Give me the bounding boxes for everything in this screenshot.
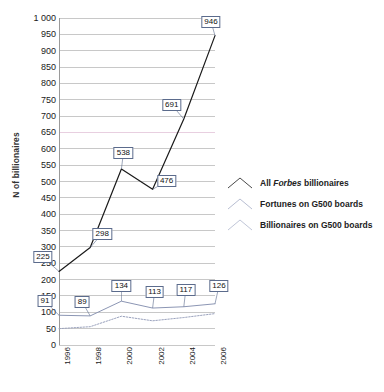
legend-label-all-forbes-billionaires: All Forbes billionaires bbox=[260, 178, 349, 188]
data-point-label: 91 bbox=[38, 295, 53, 307]
data-point-label: 113 bbox=[145, 286, 164, 298]
x-axis-tick-label: 2002 bbox=[157, 347, 166, 365]
y-axis-tick-label: 200 bbox=[0, 275, 56, 285]
legend-label-billionaires-on-g500-boards: Billionaires on G500 boards bbox=[260, 220, 372, 230]
chart-figure: N of billionaires 0501001502002503003504… bbox=[0, 0, 384, 392]
legend-line-marker-icon bbox=[226, 218, 254, 232]
y-axis-tick-label: 900 bbox=[0, 46, 56, 56]
legend-item-all-forbes-billionaires: All Forbes billionaires bbox=[226, 172, 384, 193]
data-point-label: 126 bbox=[209, 280, 228, 292]
y-axis-tick-label: 1 000 bbox=[0, 13, 56, 23]
y-axis-tick-label: 300 bbox=[0, 242, 56, 252]
y-axis-tick-label: 650 bbox=[0, 127, 56, 137]
y-axis-tick-label: 50 bbox=[0, 324, 56, 334]
x-axis-tick-label: 1996 bbox=[63, 347, 72, 365]
x-axis-tick-label: 1998 bbox=[94, 347, 103, 365]
y-axis-tick-labels: 0501001502002503003504004505005506006507… bbox=[0, 0, 56, 392]
data-point-label: 538 bbox=[114, 147, 133, 159]
y-axis-tick-label: 350 bbox=[0, 226, 56, 236]
x-axis-tick-label: 2004 bbox=[188, 347, 197, 365]
legend-line-marker-icon bbox=[226, 176, 254, 190]
y-axis-tick-label: 550 bbox=[0, 160, 56, 170]
x-axis-tick-label: 2000 bbox=[125, 347, 134, 365]
plot-area: 2252985384766919469189134113117126 bbox=[59, 18, 215, 345]
x-axis-tick-label: 2006 bbox=[219, 347, 228, 365]
data-point-label: 134 bbox=[112, 280, 131, 292]
y-axis-tick-label: 500 bbox=[0, 177, 56, 187]
data-point-label: 691 bbox=[162, 99, 181, 111]
data-point-label: 298 bbox=[93, 228, 112, 240]
y-axis-tick-label: 600 bbox=[0, 144, 56, 154]
y-axis-tick-label: 450 bbox=[0, 193, 56, 203]
y-axis-tick-label: 400 bbox=[0, 209, 56, 219]
data-point-label: 225 bbox=[33, 251, 52, 263]
y-axis-tick-label: 800 bbox=[0, 78, 56, 88]
y-axis-tick-label: 950 bbox=[0, 29, 56, 39]
legend-item-fortunes-on-g500-boards: Fortunes on G500 boards bbox=[226, 193, 384, 214]
legend-label-fortunes-on-g500-boards: Fortunes on G500 boards bbox=[260, 199, 363, 209]
y-axis-tick-label: 750 bbox=[0, 95, 56, 105]
legend-item-billionaires-on-g500-boards: Billionaires on G500 boards bbox=[226, 214, 384, 235]
data-point-label: 89 bbox=[75, 296, 90, 308]
x-axis-tick-labels: 199619982000200220042006 bbox=[59, 347, 215, 392]
chart-legend: All Forbes billionaires Fortunes on G500… bbox=[226, 172, 384, 235]
y-axis-tick-label: 0 bbox=[0, 340, 56, 350]
data-point-label: 117 bbox=[176, 284, 195, 296]
data-point-label: 946 bbox=[201, 16, 220, 28]
y-axis-tick-label: 700 bbox=[0, 111, 56, 121]
data-point-label: 476 bbox=[157, 175, 176, 187]
legend-line-marker-icon bbox=[226, 197, 254, 211]
y-axis-tick-label: 100 bbox=[0, 307, 56, 317]
y-axis-tick-label: 850 bbox=[0, 62, 56, 72]
